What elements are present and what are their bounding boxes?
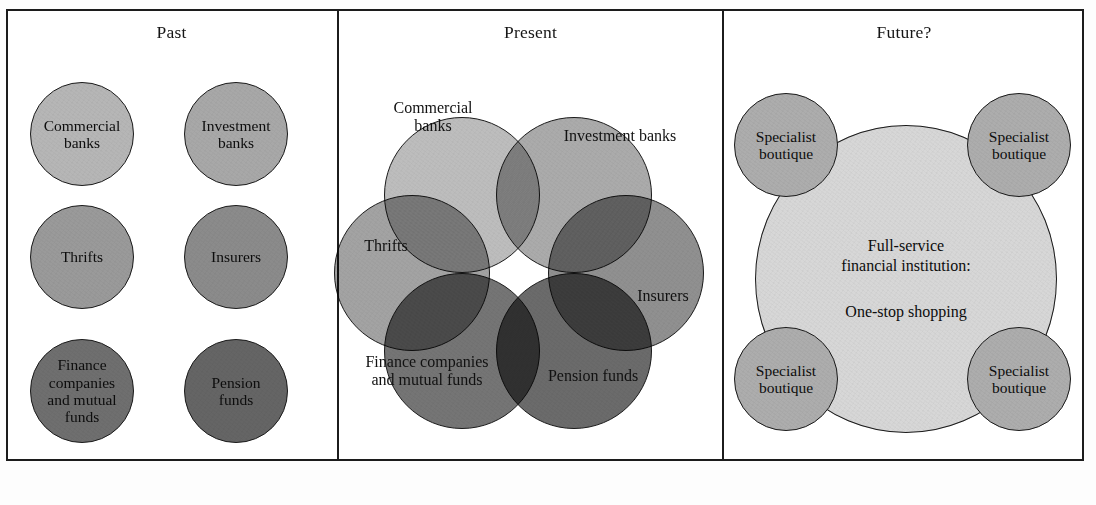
- circle-pension-funds-past: Pension funds: [184, 339, 288, 443]
- full-service-label: Full-service financial institution:: [837, 236, 974, 276]
- circle-label: Specialist boutique: [985, 362, 1053, 397]
- circle-label: Pension funds: [207, 374, 264, 409]
- circle-label-commercial-banks-present: Commercial banks: [373, 99, 493, 135]
- circle-label: Specialist boutique: [752, 128, 820, 163]
- circle-finance-companies-past: Finance companies and mutual funds: [30, 339, 134, 443]
- circle-specialist-boutique-bottom-right: Specialist boutique: [967, 327, 1071, 431]
- circle-label: Commercial banks: [40, 117, 125, 152]
- panel-present: Present Commercial banks Inve: [339, 9, 722, 461]
- circle-label-finance-companies-present: Finance companies and mutual funds: [361, 353, 493, 389]
- present-venn-stage: Commercial banks Investment banks Thrift…: [339, 9, 722, 461]
- circle-insurers-past: Insurers: [184, 205, 288, 309]
- panel-title-past: Past: [6, 22, 337, 43]
- circle-specialist-boutique-top-left: Specialist boutique: [734, 93, 838, 197]
- circle-label-investment-banks-present: Investment banks: [561, 127, 679, 145]
- one-stop-shopping-label: One-stop shopping: [841, 302, 970, 322]
- circle-specialist-boutique-bottom-left: Specialist boutique: [734, 327, 838, 431]
- circle-commercial-banks-past: Commercial banks: [30, 82, 134, 186]
- circle-label: Specialist boutique: [752, 362, 820, 397]
- circle-label: Specialist boutique: [985, 128, 1053, 163]
- circle-label: Finance companies and mutual funds: [43, 356, 120, 425]
- figure-root: Past Commercial banks Investment banks T…: [0, 0, 1096, 505]
- circle-thrifts-past: Thrifts: [30, 205, 134, 309]
- circle-label: Investment banks: [198, 117, 275, 152]
- panel-past: Past Commercial banks Investment banks T…: [6, 9, 337, 461]
- circle-label-pension-funds-present: Pension funds: [542, 367, 644, 385]
- circle-label-insurers-present: Insurers: [615, 287, 711, 305]
- circle-specialist-boutique-top-right: Specialist boutique: [967, 93, 1071, 197]
- circle-investment-banks-past: Investment banks: [184, 82, 288, 186]
- circle-label: Thrifts: [57, 248, 107, 265]
- panel-future: Future? Full-service financial instituti…: [724, 9, 1084, 461]
- circle-label-thrifts-present: Thrifts: [344, 237, 428, 255]
- circle-label: Insurers: [207, 248, 265, 265]
- panel-title-future: Future?: [724, 22, 1084, 43]
